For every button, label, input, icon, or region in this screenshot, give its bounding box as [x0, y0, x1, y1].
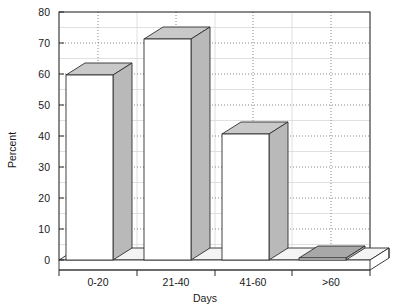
x-axis-title: Days	[193, 292, 217, 304]
y-tick-label: 10	[38, 223, 50, 235]
chart-canvas: 80 70 60 50 40 30 20 10 0 Percent	[0, 0, 395, 305]
bar-front-face	[144, 39, 191, 260]
y-tick-label: 0	[44, 254, 50, 266]
bar-chart: 80 70 60 50 40 30 20 10 0 Percent	[0, 0, 395, 305]
x-axis-labels: 0-20 21-40 41-60 >60	[87, 276, 340, 288]
y-axis-labels: 80 70 60 50 40 30 20 10 0	[38, 6, 50, 266]
bar-side-face	[269, 122, 288, 260]
bar-21-40[interactable]	[144, 27, 210, 260]
x-tick-label-41-60: 41-60	[240, 276, 267, 288]
bar-side-face	[113, 63, 132, 260]
y-tick-label: 70	[38, 37, 50, 49]
y-axis-title: Percent	[6, 132, 18, 168]
x-tick-label-gt-60: >60	[322, 276, 340, 288]
bar-side-face	[191, 27, 210, 260]
x-tick-label-21-40: 21-40	[163, 276, 190, 288]
y-tick-label: 30	[38, 161, 50, 173]
y-tick-label: 60	[38, 68, 50, 80]
y-tick-label: 20	[38, 192, 50, 204]
bar-0-20[interactable]	[66, 63, 132, 260]
x-tick-label-0-20: 0-20	[87, 276, 108, 288]
y-tick-label: 40	[38, 130, 50, 142]
bar-41-60[interactable]	[222, 122, 288, 260]
bar-front-face	[299, 258, 346, 260]
y-tick-label: 80	[38, 6, 50, 18]
bar-front-face	[222, 134, 269, 260]
bar-front-face	[66, 75, 113, 260]
y-tick-label: 50	[38, 99, 50, 111]
